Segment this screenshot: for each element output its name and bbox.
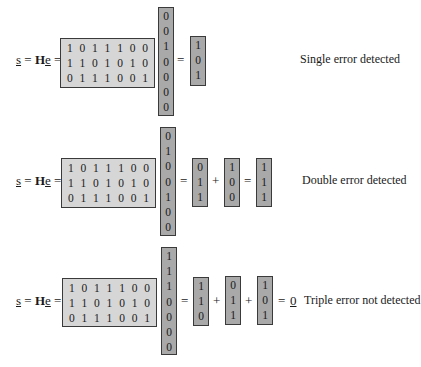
bit-value: 0 — [92, 56, 98, 71]
bit-value: 1 — [105, 71, 111, 86]
parity-check-matrix: 1011100 1101010 0111001 — [60, 38, 155, 88]
bit-value: 1 — [105, 41, 111, 56]
bit-value: 1 — [193, 175, 207, 190]
h-symbol: H — [35, 173, 45, 188]
bit-value: 1 — [81, 176, 87, 191]
bit-value: 0 — [159, 70, 173, 85]
bit-value: 0 — [81, 161, 87, 176]
bit-value: 1 — [80, 56, 86, 71]
bit-value: 1 — [130, 56, 136, 71]
h-symbol: H — [35, 52, 45, 67]
bit-value: 1 — [143, 191, 149, 206]
bit-value: 1 — [258, 308, 272, 323]
equals-sign: = — [177, 52, 184, 68]
bit-value: 1 — [191, 68, 205, 83]
bit-value: 0 — [131, 191, 137, 206]
bit-value: 0 — [161, 129, 175, 144]
bit-value: 1 — [131, 176, 137, 191]
bit-value: 1 — [81, 191, 87, 206]
bit-value: 1 — [93, 191, 99, 206]
bit-value: 0 — [226, 278, 240, 293]
column-vector: 011 — [225, 276, 241, 325]
bit-value: 1 — [82, 296, 88, 311]
bit-value: 1 — [68, 176, 74, 191]
panel-triple-error: s = He = 1011100 1101010 0111001 1110000… — [0, 240, 417, 367]
bit-value: 1 — [194, 279, 208, 294]
bit-value: 0 — [159, 100, 173, 115]
bit-value: 1 — [106, 191, 112, 206]
bit-value: 1 — [191, 38, 205, 53]
bit-value: 0 — [191, 53, 205, 68]
bit-value: 1 — [107, 281, 113, 296]
bit-value: 0 — [132, 311, 138, 326]
equals-sign: = — [51, 173, 62, 188]
bit-value: 0 — [131, 161, 137, 176]
equals-sign: = — [51, 293, 62, 308]
bit-value: 1 — [94, 311, 100, 326]
bit-value: 0 — [82, 281, 88, 296]
bit-value: 1 — [194, 294, 208, 309]
bit-value: 1 — [67, 41, 73, 56]
equals-sign: = — [21, 173, 35, 188]
sum-vector: 111 — [256, 158, 272, 207]
matrix-row: 1101010 — [61, 56, 154, 71]
bit-value: 1 — [69, 281, 75, 296]
result-label: Single error detected — [300, 52, 400, 67]
bit-value: 1 — [94, 281, 100, 296]
matrix-row: 1011100 — [62, 161, 155, 176]
bit-value: 0 — [162, 340, 176, 355]
bit-value: 0 — [69, 311, 75, 326]
bit-value: 0 — [117, 71, 123, 86]
panel-double-error: s = He = 1011100 1101010 0111001 0100100… — [0, 120, 417, 240]
syndrome-vector: 011 — [192, 158, 208, 207]
bit-value: 1 — [226, 293, 240, 308]
plus-sign: + — [245, 293, 252, 309]
syndrome-equation-lhs: s = He = — [16, 173, 61, 189]
bit-value: 0 — [118, 176, 124, 191]
bit-value: 0 — [143, 161, 149, 176]
bit-value: 0 — [119, 296, 125, 311]
matrix-row: 1011100 — [61, 41, 154, 56]
bit-value: 0 — [161, 205, 175, 220]
bit-value: 0 — [162, 295, 176, 310]
equals-sign: = — [21, 293, 35, 308]
syndrome-vector: 101 — [190, 36, 206, 86]
bit-value: 1 — [132, 296, 138, 311]
matrix-row: 0111001 — [62, 191, 155, 206]
bit-value: 1 — [225, 160, 239, 175]
parity-check-matrix: 1011100 1101010 0111001 — [62, 278, 157, 327]
bit-value: 0 — [161, 220, 175, 235]
bit-value: 1 — [82, 311, 88, 326]
bit-value: 0 — [162, 325, 176, 340]
bit-value: 0 — [130, 71, 136, 86]
bit-value: 0 — [144, 296, 150, 311]
bit-value: 0 — [94, 296, 100, 311]
bit-value: 0 — [143, 176, 149, 191]
bit-value: 1 — [107, 296, 113, 311]
bit-value: 1 — [67, 56, 73, 71]
bit-value: 1 — [106, 176, 112, 191]
bit-value: 0 — [159, 85, 173, 100]
bit-value: 1 — [257, 160, 271, 175]
error-vector: 1110000 — [161, 247, 177, 355]
bit-value: 0 — [193, 160, 207, 175]
bit-value: 0 — [93, 176, 99, 191]
bit-value: 1 — [257, 190, 271, 205]
bit-value: 0 — [142, 41, 148, 56]
result-label: Double error detected — [302, 173, 407, 188]
equals-sign: = — [244, 173, 251, 189]
matrix-row: 0111001 — [61, 71, 154, 86]
bit-value: 1 — [161, 190, 175, 205]
bit-value: 0 — [80, 41, 86, 56]
plus-sign: + — [213, 293, 220, 309]
bit-value: 1 — [119, 281, 125, 296]
bit-value: 1 — [106, 161, 112, 176]
bit-value: 0 — [119, 311, 125, 326]
bit-value: 1 — [161, 144, 175, 159]
bit-value: 0 — [144, 281, 150, 296]
equals-sign: = — [278, 293, 285, 309]
bit-value: 0 — [159, 24, 173, 39]
bit-value: 1 — [69, 296, 75, 311]
bit-value: 1 — [159, 39, 173, 54]
bit-value: 1 — [92, 71, 98, 86]
